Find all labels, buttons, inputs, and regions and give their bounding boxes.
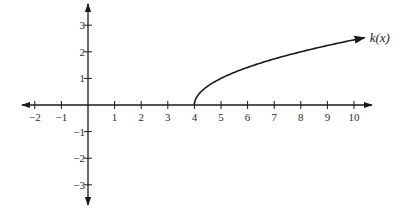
function-labels: k(x) bbox=[370, 30, 390, 45]
x-tick-label: −2 bbox=[29, 111, 41, 123]
x-tick-label: 3 bbox=[165, 111, 171, 123]
function-graph: −2−112345678910 321−1−2−3 k(x) bbox=[0, 0, 407, 215]
x-tick-label: 4 bbox=[192, 111, 198, 123]
x-tick-label: 8 bbox=[298, 111, 304, 123]
y-tick-label: 3 bbox=[80, 19, 86, 31]
x-tick-label: 10 bbox=[349, 111, 361, 123]
x-tick-label: 5 bbox=[218, 111, 224, 123]
function-curve-k bbox=[194, 38, 364, 105]
y-tick-label: 1 bbox=[80, 72, 86, 84]
x-tick-label: 9 bbox=[325, 111, 331, 123]
x-tick-label: 2 bbox=[138, 111, 144, 123]
y-tick-label: −1 bbox=[73, 126, 85, 138]
curve-path bbox=[194, 38, 364, 105]
x-tick-label: 6 bbox=[245, 111, 251, 123]
x-tick-label: −1 bbox=[56, 111, 68, 123]
y-tick-label: −3 bbox=[73, 179, 85, 191]
x-tick-label: 7 bbox=[271, 111, 277, 123]
y-tick-label: 2 bbox=[80, 46, 86, 58]
y-tick-label: −2 bbox=[73, 152, 85, 164]
x-tick-label: 1 bbox=[112, 111, 118, 123]
function-label: k(x) bbox=[370, 30, 390, 45]
